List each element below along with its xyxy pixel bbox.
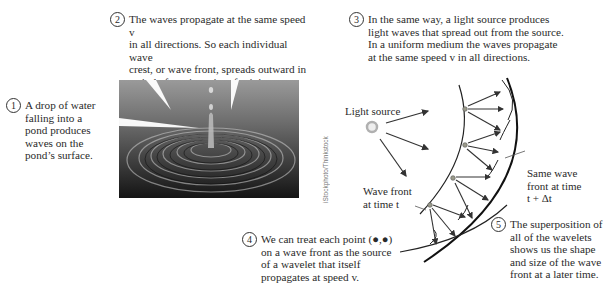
light-source-icon: [367, 122, 377, 132]
wave-front-t-label: Wave front at time t: [363, 185, 412, 210]
wave-front-t: [420, 85, 464, 214]
wave-front-later: [424, 78, 517, 262]
huygens-diagram: [0, 0, 606, 291]
light-source-label: Light source: [345, 105, 400, 118]
wave-front-later-label: Same wave front at time t + Δt: [527, 167, 581, 205]
